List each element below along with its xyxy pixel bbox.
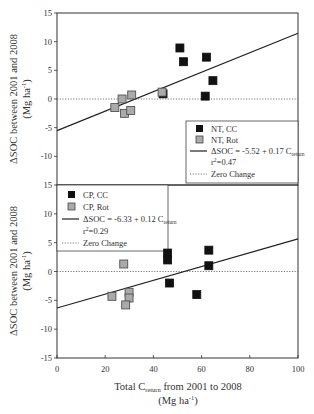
y-tick-label: -5 — [45, 123, 52, 133]
figure: -10-5051015 NT, CC NT, Rot ΔSOC = -5.52 … — [0, 0, 314, 414]
bottom-data-points — [108, 246, 213, 309]
legend-zero-bottom: Zero Change — [83, 238, 127, 248]
legend-zero-top: Zero Change — [211, 169, 255, 179]
y-tick-label: -10 — [41, 324, 52, 334]
top-y-axis-label: ΔSOC between 2001 and 2008 — [8, 34, 19, 164]
x-tick-label: 20 — [101, 364, 110, 374]
y-tick-label: 15 — [44, 8, 53, 18]
x-tick-label: 40 — [149, 364, 158, 374]
data-point-cc — [205, 262, 213, 270]
x-tick-label: 80 — [246, 364, 255, 374]
data-point-cc — [193, 291, 201, 299]
legend-swatch-cp-rot — [68, 203, 75, 210]
data-point-rot — [128, 91, 136, 99]
y-tick-label: -5 — [45, 295, 52, 305]
y-tick-label: 5 — [48, 65, 52, 75]
data-point-rot — [120, 260, 128, 268]
top-panel: -10-5051015 NT, CC NT, Rot ΔSOC = -5.52 … — [8, 8, 305, 185]
data-point-cc — [209, 77, 217, 85]
legend-equation-bottom: ΔSOC = -6.33 + 0.12 Creturn — [83, 214, 177, 225]
data-point-rot — [127, 106, 135, 114]
x-axis-label: Total Creturn from 2001 to 2008 — [114, 381, 242, 393]
y-tick-label: 10 — [44, 209, 53, 219]
data-point-rot — [111, 104, 119, 112]
data-point-cc — [164, 256, 172, 264]
legend-label-cp-cc: CP, CC — [83, 190, 108, 200]
y-tick-label: 0 — [48, 267, 52, 277]
x-tick-label: 0 — [55, 364, 59, 374]
top-data-points — [111, 44, 217, 117]
top-y-axis-units: (Mg ha-1) — [20, 79, 33, 119]
bottom-y-axis-ticks: -15-10-5051015 — [41, 180, 57, 363]
data-point-cc — [205, 246, 213, 254]
bottom-panel: -15-10-5051015 020406080100 CP, CC CP, R… — [8, 180, 304, 374]
x-axis-units: (Mg ha-1) — [158, 394, 198, 407]
y-tick-label: 15 — [44, 180, 53, 190]
top-y-axis-ticks: -10-5051015 — [41, 8, 57, 161]
x-tick-label: 60 — [197, 364, 206, 374]
legend-label-nt-rot: NT, Rot — [211, 135, 239, 145]
legend-label-nt-cc: NT, CC — [211, 124, 238, 134]
bottom-y-axis-units: (Mg ha-1) — [20, 251, 33, 291]
legend-swatch-nt-cc — [196, 125, 203, 132]
y-tick-label: 10 — [44, 37, 53, 47]
top-legend: NT, CC NT, Rot ΔSOC = -5.52 + 0.17 Cretu… — [186, 121, 305, 183]
data-point-cc — [166, 279, 174, 287]
data-point-rot — [108, 292, 116, 300]
legend-label-cp-rot: CP, Rot — [83, 202, 110, 212]
bottom-legend: CP, CC CP, Rot ΔSOC = -6.33 + 0.12 Cretu… — [57, 185, 177, 251]
y-tick-label: -15 — [41, 353, 52, 363]
bottom-y-axis-label: ΔSOC between 2001 and 2008 — [8, 206, 19, 336]
data-point-cc — [176, 44, 184, 52]
data-point-cc — [202, 53, 210, 61]
data-point-cc — [201, 92, 209, 100]
legend-swatch-cp-cc — [68, 191, 75, 198]
data-point-rot — [122, 301, 130, 309]
x-tick-label: 100 — [292, 364, 305, 374]
data-point-cc — [180, 58, 188, 66]
y-tick-label: -10 — [41, 151, 52, 161]
y-tick-label: 5 — [48, 238, 52, 248]
legend-swatch-nt-rot — [196, 136, 203, 143]
data-point-rot — [118, 95, 126, 103]
y-tick-label: 0 — [48, 94, 52, 104]
legend-equation-top: ΔSOC = -5.52 + 0.17 Creturn — [211, 146, 305, 157]
data-point-rot — [158, 88, 166, 96]
